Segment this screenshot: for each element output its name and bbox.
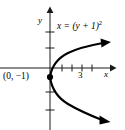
parabola-figure: y x 3 x = (y + 1)2 (0, −1) — [0, 0, 125, 130]
x-axis-label: x — [104, 70, 108, 79]
vertex-coordinate-label: (0, −1) — [3, 72, 29, 82]
parabola-upper-branch — [50, 43, 103, 77]
equation-exponent: 2 — [99, 19, 102, 26]
y-axis-arrowhead — [47, 7, 54, 14]
x-axis-arrowhead — [110, 65, 117, 72]
plot-canvas — [0, 0, 125, 130]
vertex-point-marker — [47, 74, 53, 80]
y-axis-label: y — [38, 16, 42, 25]
equation-label: x = (y + 1)2 — [57, 22, 102, 32]
x-tick-label-3: 3 — [78, 71, 83, 80]
parabola-lower-branch — [50, 77, 102, 120]
parabola-upper-arrowhead — [101, 39, 112, 48]
parabola-lower-arrowhead — [100, 116, 111, 125]
equation-expression: x = (y + 1) — [57, 21, 99, 31]
